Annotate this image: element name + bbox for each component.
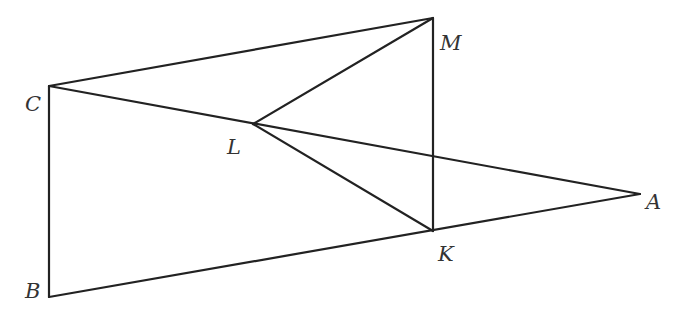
- point-label-a: A: [644, 190, 661, 214]
- point-label-m: M: [439, 31, 462, 55]
- point-label-k: K: [437, 242, 455, 266]
- point-label-l: L: [226, 135, 241, 159]
- geometry-diagram: A B C K L M: [0, 0, 679, 314]
- segment-ba: [49, 194, 640, 297]
- point-label-b: B: [24, 279, 40, 303]
- point-label-c: C: [25, 92, 41, 116]
- segments-group: [49, 18, 640, 297]
